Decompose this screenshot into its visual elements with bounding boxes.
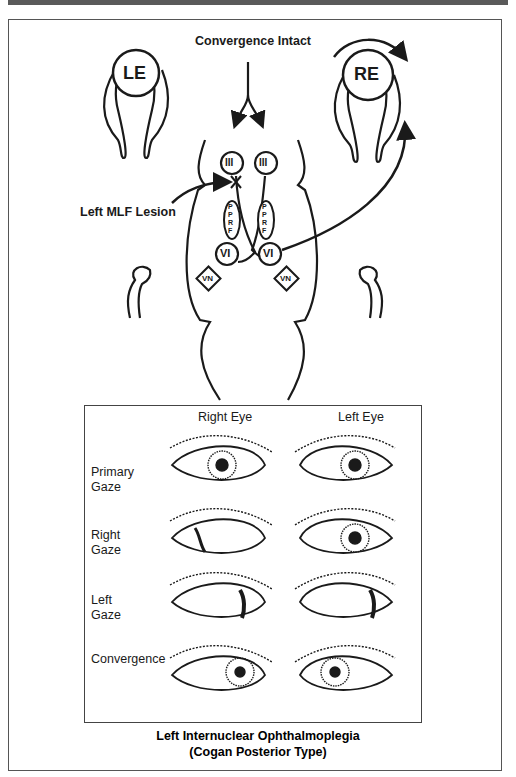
right-eye-label: RE (354, 64, 379, 85)
caption-subtitle: (Cogan Posterior Type) (0, 745, 516, 760)
vestibular-right-label: VN (280, 274, 291, 283)
oculomotor-right-label: III (259, 157, 267, 168)
row-label-right-gaze: Right Gaze (91, 528, 121, 558)
left-eye-label: LE (123, 63, 146, 84)
column-header-right-eye: Right Eye (198, 410, 252, 424)
row-label-left-gaze: Left Gaze (91, 593, 121, 623)
column-header-left-eye: Left Eye (338, 410, 384, 424)
pprf-left-label: PPRF (228, 203, 236, 235)
left-mlf-lesion-label: Left MLF Lesion (80, 205, 176, 219)
eye-position-panel (84, 405, 422, 723)
row-label-primary-gaze: Primary Gaze (91, 465, 134, 495)
convergence-intact-label: Convergence Intact (195, 34, 311, 48)
oculomotor-left-label: III (225, 157, 233, 168)
vestibular-left-label: VN (202, 274, 213, 283)
abducens-right-label: VI (263, 247, 273, 259)
row-label-convergence: Convergence (91, 652, 165, 667)
abducens-left-label: VI (220, 247, 230, 259)
caption-title: Left Internuclear Ophthalmoplegia (0, 729, 516, 744)
pprf-right-label: PPRF (262, 203, 270, 235)
right-eye-orbit-icon (334, 40, 405, 162)
